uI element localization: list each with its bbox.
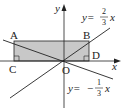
svg-text:x: x	[109, 11, 115, 23]
svg-text:x: x	[104, 82, 110, 94]
point-label-b: B	[83, 29, 90, 41]
origin-label: O	[62, 64, 70, 76]
svg-text:1: 1	[97, 78, 101, 87]
svg-text:−: −	[87, 82, 93, 94]
point-label-d: D	[92, 49, 100, 61]
point-label-a: A	[10, 29, 18, 41]
equation-positive: y= 2 3 x	[81, 7, 115, 27]
x-axis-label: x	[111, 60, 117, 72]
svg-text:3: 3	[97, 89, 101, 98]
line-positive-slope	[10, 28, 110, 98]
coordinate-diagram: A B C D O x y y= 2 3 x y= − 1 3 x	[0, 0, 122, 110]
point-label-c: C	[9, 63, 16, 75]
svg-text:y=: y=	[81, 11, 94, 23]
svg-text:3: 3	[102, 18, 106, 27]
equation-negative: y= − 1 3 x	[67, 78, 110, 98]
y-axis-label: y	[54, 2, 60, 14]
svg-text:2: 2	[102, 7, 106, 16]
svg-text:y=: y=	[67, 82, 80, 94]
y-axis-arrow-icon	[62, 4, 67, 11]
